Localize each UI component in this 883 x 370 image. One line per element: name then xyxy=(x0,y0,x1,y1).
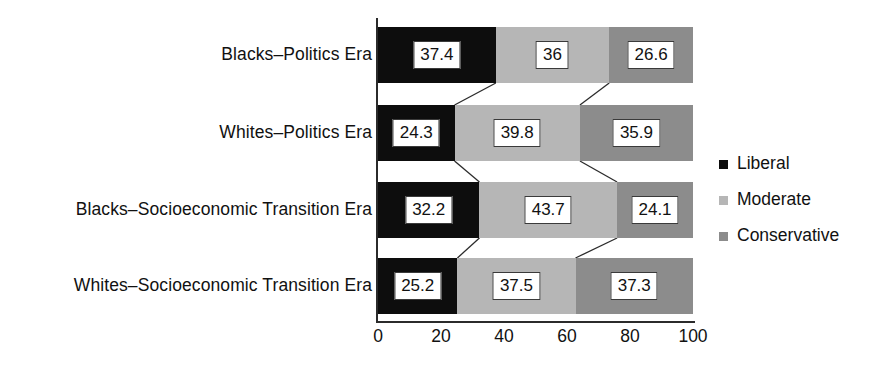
bar-segment-moderate: 37.5 xyxy=(457,258,575,314)
connector-line xyxy=(455,161,480,182)
segment-value-label: 36 xyxy=(536,41,569,69)
x-tick-label: 0 xyxy=(373,328,383,346)
bar-segment-moderate: 36 xyxy=(496,27,609,83)
bar-segment-moderate: 39.8 xyxy=(455,105,580,161)
stacked-bar-chart: Blacks–Politics EraWhites–Politics EraBl… xyxy=(0,0,883,370)
segment-value-label: 25.2 xyxy=(394,272,441,300)
bar-segment-liberal: 25.2 xyxy=(378,258,457,314)
bar-segment-conservative: 35.9 xyxy=(580,105,693,161)
legend-label: Moderate xyxy=(737,191,811,209)
segment-value-label: 32.2 xyxy=(405,196,452,224)
connector-line xyxy=(580,83,609,105)
bar-segment-conservative: 26.6 xyxy=(609,27,693,83)
bar-row: 25.237.537.3 xyxy=(378,258,693,314)
legend-swatch-icon xyxy=(719,160,728,169)
plot-area: 37.43626.624.339.835.932.243.724.125.237… xyxy=(378,18,693,321)
connector-line xyxy=(580,161,617,182)
bar-segment-liberal: 24.3 xyxy=(378,105,455,161)
category-label: Whites–Politics Era xyxy=(0,124,372,142)
legend-item: Moderate xyxy=(719,182,879,218)
connector-line xyxy=(457,238,479,258)
legend-label: Liberal xyxy=(737,155,790,173)
connector-line xyxy=(576,238,618,258)
segment-value-label: 37.4 xyxy=(413,41,460,69)
segment-value-label: 39.8 xyxy=(494,119,541,147)
segment-value-label: 35.9 xyxy=(613,119,660,147)
x-tick-label: 40 xyxy=(494,328,513,346)
legend-label: Conservative xyxy=(737,227,839,245)
bar-segment-conservative: 24.1 xyxy=(617,182,693,238)
legend-item: Conservative xyxy=(719,218,879,254)
legend-item: Liberal xyxy=(719,146,879,182)
bar-row: 32.243.724.1 xyxy=(378,182,693,238)
segment-value-label: 37.3 xyxy=(611,272,658,300)
bar-row: 24.339.835.9 xyxy=(378,105,693,161)
legend-swatch-icon xyxy=(719,232,728,241)
category-label: Blacks–Politics Era xyxy=(0,46,372,64)
bar-row: 37.43626.6 xyxy=(378,27,693,83)
segment-value-label: 37.5 xyxy=(493,272,540,300)
segment-value-label: 43.7 xyxy=(525,196,572,224)
connector-line xyxy=(455,83,496,105)
x-tick-label: 100 xyxy=(678,328,707,346)
x-tick-label: 80 xyxy=(620,328,639,346)
x-axis-line xyxy=(376,321,695,323)
category-label: Whites–Socioeconomic Transition Era xyxy=(0,277,372,295)
segment-value-label: 26.6 xyxy=(628,41,675,69)
bar-segment-conservative: 37.3 xyxy=(576,258,693,314)
category-label: Blacks–Socioeconomic Transition Era xyxy=(0,201,372,219)
bar-segment-liberal: 37.4 xyxy=(378,27,496,83)
chart-legend: LiberalModerateConservative xyxy=(719,146,879,254)
x-tick-label: 60 xyxy=(557,328,576,346)
segment-value-label: 24.3 xyxy=(393,119,440,147)
x-tick-label: 20 xyxy=(431,328,450,346)
segment-value-label: 24.1 xyxy=(631,196,678,224)
bar-segment-moderate: 43.7 xyxy=(479,182,617,238)
bar-segment-liberal: 32.2 xyxy=(378,182,479,238)
legend-swatch-icon xyxy=(719,196,728,205)
